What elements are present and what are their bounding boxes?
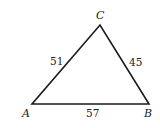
vertex-label-b: B <box>143 107 152 120</box>
side-label-cb: 45 <box>129 56 142 68</box>
vertex-label-a: A <box>21 107 30 120</box>
side-label-ab: 57 <box>86 107 99 119</box>
triangle-svg: C A B 51 45 57 <box>0 0 160 128</box>
side-label-ac: 51 <box>50 55 63 67</box>
vertex-label-c: C <box>96 9 105 22</box>
triangle-diagram: C A B 51 45 57 <box>0 0 160 128</box>
